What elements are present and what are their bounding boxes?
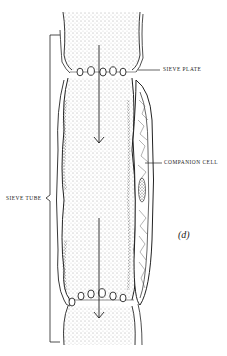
- sieve-tube-element: [57, 78, 136, 306]
- panel-label: (d): [178, 229, 190, 240]
- lower-cell-segment: [64, 304, 143, 345]
- sieve-tube-diagram: [0, 0, 227, 356]
- sieve-tube-label: SIEVE TUBE: [6, 195, 42, 201]
- upper-cell-segment: [60, 12, 143, 73]
- companion-cell-nucleus: [139, 178, 146, 202]
- companion-cell-label: COMPANION CELL: [164, 159, 218, 165]
- companion-cell: [133, 80, 154, 305]
- sieve-plate-label: SIEVE PLATE: [163, 66, 201, 72]
- sieve-tube-bracket: [46, 35, 60, 342]
